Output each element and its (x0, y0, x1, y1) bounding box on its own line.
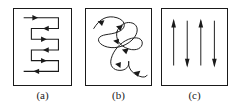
arrowhead-left-1 (43, 26, 49, 31)
alternating-vertical-arrows-drawing (162, 9, 227, 85)
panel-c-alternating-arrows (161, 8, 228, 86)
arrowhead-down-2 (212, 59, 217, 68)
arrowhead-right-3 (41, 58, 47, 63)
arrowhead-up-1 (171, 19, 176, 28)
arrowhead-b-3 (113, 39, 119, 45)
boustrophedon-path-drawing (14, 9, 71, 85)
caption-b: (b) (85, 88, 152, 102)
arrowhead-b-4 (122, 48, 129, 54)
direction-arrowheads (32, 15, 48, 74)
panel-b-looping-zigzag (85, 8, 152, 86)
arrowhead-right-1 (32, 15, 38, 20)
three-panel-figure: (a) (b) (c) (0, 0, 237, 112)
arrowhead-left-2 (43, 47, 49, 52)
arrowhead-right-2 (41, 36, 47, 41)
caption-c: (c) (161, 88, 228, 102)
arrowhead-left-3 (33, 69, 39, 74)
looping-zigzag-path-drawing (86, 9, 151, 85)
arrowheads (171, 19, 216, 68)
arrowhead-down-1 (185, 59, 190, 68)
arrowhead-b-5 (115, 62, 121, 68)
arrowhead-up-2 (198, 19, 203, 28)
caption-a: (a) (13, 88, 72, 102)
arrowhead-b-1 (98, 20, 105, 26)
panel-a-boustrophedon (13, 8, 72, 86)
direction-arrowheads (98, 20, 141, 77)
